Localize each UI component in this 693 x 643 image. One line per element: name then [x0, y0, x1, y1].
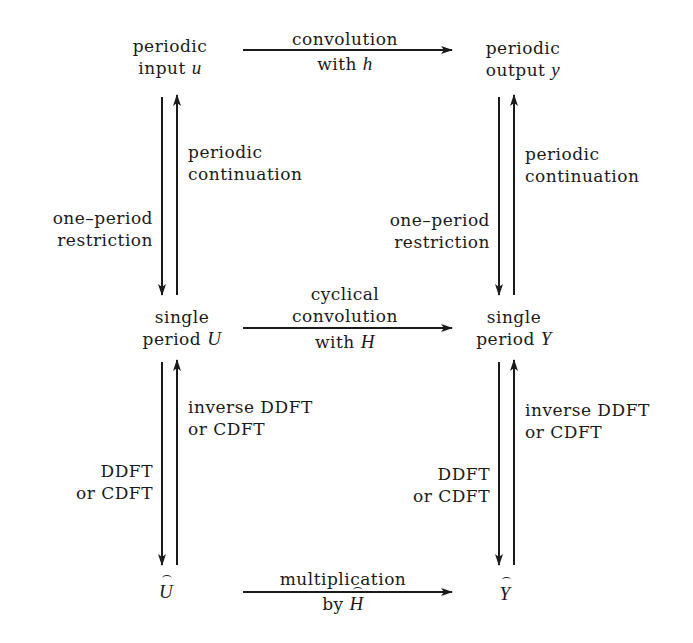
edge-label-left-periodic-continuation: periodic continuation	[188, 141, 302, 185]
edge-line: inverse DDFT	[188, 396, 313, 418]
edge-line: periodic	[188, 141, 302, 163]
edge-label-convolution: convolution with h	[292, 28, 398, 75]
node-text: input	[138, 58, 191, 78]
edge-line: inverse DDFT	[525, 399, 650, 421]
edge-text: with	[315, 332, 361, 352]
node-text: period	[143, 329, 208, 349]
edge-line: or CDFT	[525, 421, 650, 443]
edge-line: or CDFT	[76, 482, 153, 504]
var-u: u	[192, 57, 202, 78]
node-u-hat: U	[159, 581, 173, 603]
node-single-period-u: single period U	[143, 306, 222, 350]
edge-line: restriction	[53, 229, 153, 251]
edge-label-right-ddft: DDFT or CDFT	[413, 463, 490, 507]
node-single-period-y: single period Y	[476, 306, 552, 350]
edge-label-cyclical-convolution: cyclical convolution with H	[292, 283, 398, 353]
edge-line: DDFT	[76, 460, 153, 482]
node-line: period U	[143, 328, 222, 350]
var-h: h	[363, 53, 373, 74]
edge-line: or CDFT	[188, 418, 313, 440]
node-line: single	[143, 306, 222, 328]
node-line: periodic	[486, 37, 561, 59]
edge-line: convolution	[292, 305, 398, 327]
edge-line: with H	[292, 331, 398, 353]
edge-line: or CDFT	[413, 485, 490, 507]
var-H: H	[361, 331, 375, 352]
edge-label-left-one-period-restriction: one–period restriction	[53, 207, 153, 251]
edge-line: restriction	[390, 231, 490, 253]
var-H-hat: H	[350, 593, 364, 615]
node-text: output	[486, 60, 552, 80]
edge-label-left-ddft: DDFT or CDFT	[76, 460, 153, 504]
var-U-hat: U	[159, 581, 173, 603]
edge-line: DDFT	[413, 463, 490, 485]
edge-line: convolution	[292, 28, 398, 50]
node-periodic-output: periodic output y	[486, 37, 561, 81]
edge-label-right-inverse-ddft: inverse DDFT or CDFT	[525, 399, 650, 443]
node-line: single	[476, 306, 552, 328]
edge-text: with	[317, 54, 363, 74]
node-line: period Y	[476, 328, 552, 350]
edge-line: continuation	[525, 165, 639, 187]
edge-label-left-inverse-ddft: inverse DDFT or CDFT	[188, 396, 313, 440]
var-y: y	[551, 59, 560, 80]
edge-line: cyclical	[292, 283, 398, 305]
node-line: input u	[133, 57, 208, 79]
var-U: U	[207, 328, 221, 349]
edge-text: by	[322, 594, 349, 614]
node-y-hat: Y	[499, 583, 510, 605]
edge-line: continuation	[188, 163, 302, 185]
node-line: output y	[486, 59, 561, 81]
node-periodic-input: periodic input u	[133, 35, 208, 79]
node-line: periodic	[133, 35, 208, 57]
edge-line: one–period	[53, 207, 153, 229]
var-Y: Y	[541, 328, 552, 349]
node-text: period	[476, 329, 541, 349]
edge-line: multiplication	[280, 568, 407, 590]
edge-line: periodic	[525, 143, 639, 165]
edge-line: with h	[292, 53, 398, 75]
edge-label-right-one-period-restriction: one–period restriction	[390, 209, 490, 253]
edge-line: by H	[280, 593, 407, 615]
edge-line: one–period	[390, 209, 490, 231]
edge-label-right-periodic-continuation: periodic continuation	[525, 143, 639, 187]
edge-label-multiplication: multiplication by H	[280, 568, 407, 615]
var-Y-hat: Y	[499, 583, 510, 605]
